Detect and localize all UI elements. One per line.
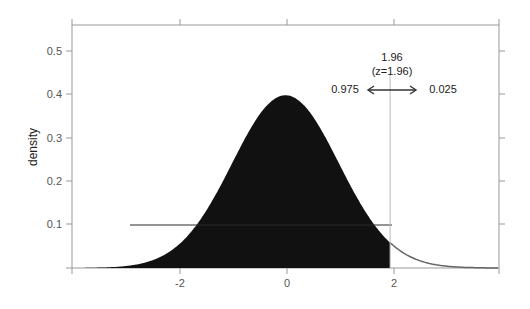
y-axis-ticks — [66, 51, 72, 268]
left-area-label: 0.975 — [331, 83, 359, 95]
y-tick-label: 0.1 — [47, 218, 62, 230]
top-ticks — [72, 19, 499, 25]
double-arrow-icon — [368, 86, 416, 94]
x-tick-label: -2 — [175, 277, 185, 289]
right-tail-curve — [390, 243, 498, 268]
cutoff-z-label: (z=1.96) — [372, 65, 413, 77]
right-area-label: 0.025 — [429, 83, 457, 95]
x-tick-label: 0 — [284, 277, 290, 289]
y-tick-label: 0.2 — [47, 175, 62, 187]
x-tick-label: 2 — [391, 277, 397, 289]
right-ticks — [499, 51, 505, 224]
y-axis-title: density — [26, 128, 40, 166]
y-tick-label: 0.3 — [47, 132, 62, 144]
y-tick-label: 0.4 — [47, 88, 62, 100]
cutoff-value-label: 1.96 — [381, 51, 402, 63]
y-tick-label: 0.5 — [47, 45, 62, 57]
shaded-area-0.975 — [72, 95, 390, 268]
x-axis-labels: -2 0 2 — [175, 277, 397, 289]
y-axis-labels: 0.1 0.2 0.3 0.4 0.5 — [47, 45, 62, 230]
x-axis-ticks — [72, 268, 499, 274]
normal-density-chart: 0.1 0.2 0.3 0.4 0.5 -2 0 2 density 1.96 … — [0, 0, 530, 309]
